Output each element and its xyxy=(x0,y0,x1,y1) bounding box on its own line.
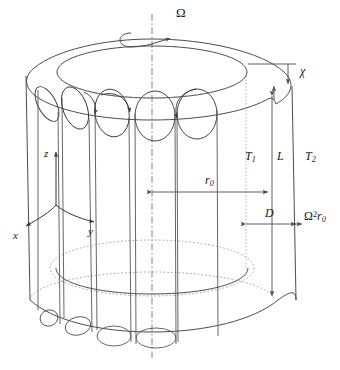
cylinder-body-group xyxy=(26,76,296,332)
top-outer-rim-right xyxy=(152,39,291,104)
figure-root: Ω χ T1 L T2 r0 D Ω2r0 z x y xyxy=(0,0,340,370)
centrifugal-accel-label: Ω2r0 xyxy=(304,210,326,224)
top-outer-rim-left xyxy=(27,39,152,99)
roll-cell-4-top-ellipse xyxy=(135,91,175,141)
roll-cell-1-top-ellipse xyxy=(30,83,64,125)
roll-cell-2 xyxy=(56,83,95,338)
coordinate-triad-group xyxy=(26,152,94,226)
roll-cell-4-right-generatrix xyxy=(175,114,176,344)
roll-cell-1-bottom-ellipse xyxy=(38,307,60,328)
height-label: L xyxy=(277,150,284,162)
bottom-outer-front-arc xyxy=(30,300,278,332)
roll-cell-3 xyxy=(91,86,133,346)
roll-cell-5-top-ellipse xyxy=(177,89,217,139)
rotation-rate-label: Ω xyxy=(176,6,186,19)
roll-cell-5-right-generatrix xyxy=(217,110,218,336)
roll-cell-3-left-generatrix xyxy=(95,108,97,330)
z-axis-label: z xyxy=(44,148,48,159)
diagram-canvas xyxy=(0,0,340,370)
y-axis-label: y xyxy=(88,226,93,237)
x-axis-label: x xyxy=(13,230,18,241)
cylinder-top-group xyxy=(27,39,291,120)
roll-cell-5 xyxy=(176,89,218,342)
chi-label: χ xyxy=(300,65,305,77)
roll-cell-5-left-generatrix xyxy=(177,112,178,342)
y-axis-arrow xyxy=(56,205,94,222)
bottom-outer-right-join xyxy=(278,293,296,300)
chi-dimension xyxy=(248,64,296,100)
top-outer-rim-front xyxy=(40,98,276,120)
outer-wall-right-edge xyxy=(292,86,296,300)
outer-wall-left-edge xyxy=(26,76,30,300)
roll-cell-4-bottom-ellipse xyxy=(136,328,176,348)
x-axis-arrow xyxy=(26,205,56,226)
outer-temperature-label: T2 xyxy=(305,150,316,164)
roll-cell-4 xyxy=(135,91,176,348)
radius-label: r0 xyxy=(205,174,214,188)
roll-cell-3-right-generatrix xyxy=(129,118,131,342)
roll-cell-2-left-generatrix xyxy=(62,98,64,318)
roll-cell-3-bottom-ellipse xyxy=(97,326,131,346)
roll-cells-group xyxy=(30,83,218,348)
roll-cell-4-left-generatrix xyxy=(135,114,136,344)
roll-cell-1-right-generatrix xyxy=(58,112,60,324)
inner-temperature-label: T1 xyxy=(245,150,256,164)
gap-label: D xyxy=(265,207,274,219)
roll-cell-1 xyxy=(30,83,64,329)
roll-cell-3-top-ellipse xyxy=(91,86,133,139)
